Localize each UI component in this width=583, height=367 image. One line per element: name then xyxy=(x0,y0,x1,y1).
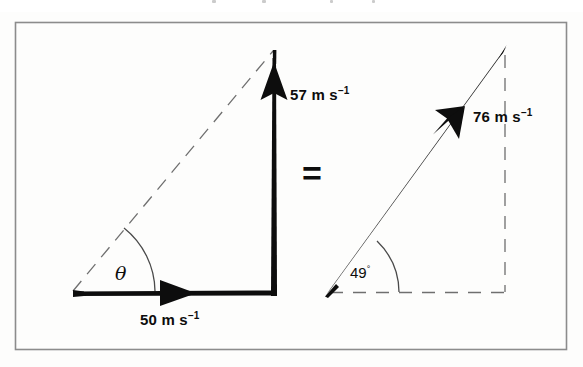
vertical-component-exponent: −1 xyxy=(338,85,349,96)
vector-addition-figure: 57 m s−1 50 m s−1 θ = 76 m s−1 49° xyxy=(0,0,583,367)
hypotenuse-dashed-line xyxy=(73,51,273,291)
vertical-component-value: 57 m s xyxy=(290,86,338,103)
angle-49-arc xyxy=(377,241,399,292)
horizontal-component-exponent: −1 xyxy=(188,310,199,321)
horizontal-component-label: 50 m s−1 xyxy=(140,310,199,328)
right-diagram xyxy=(325,45,507,298)
angle-49-label: 49° xyxy=(350,264,370,281)
degree-symbol: ° xyxy=(367,264,371,274)
theta-angle-arc xyxy=(124,228,155,291)
left-diagram xyxy=(73,50,288,306)
vertical-component-label: 57 m s−1 xyxy=(290,85,349,103)
theta-angle-label: θ xyxy=(115,262,126,284)
horizontal-vector-arrowhead xyxy=(160,280,196,306)
resultant-exponent: −1 xyxy=(521,107,532,118)
figure-canvas xyxy=(0,0,583,367)
resultant-label: 76 m s−1 xyxy=(473,107,532,125)
horizontal-vector-tail xyxy=(73,290,84,297)
right-angle-corner xyxy=(271,291,277,296)
resultant-vector-tail xyxy=(325,284,339,298)
equals-sign: = xyxy=(302,156,322,190)
angle-49-value: 49 xyxy=(350,264,367,281)
resultant-vector-shaft xyxy=(326,47,507,296)
horizontal-component-value: 50 m s xyxy=(140,311,188,328)
resultant-value: 76 m s xyxy=(473,108,521,125)
vertical-vector-tip xyxy=(273,50,277,64)
figure-frame xyxy=(16,23,567,350)
